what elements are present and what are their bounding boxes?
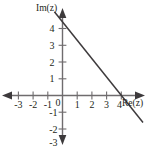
tick-label-y-3: 3 [50, 40, 55, 51]
tick-label-y-1: 1 [50, 73, 55, 84]
tick-label-y-neg2: -2 [49, 124, 57, 135]
imaginary-axis-up-arrow-icon [59, 8, 67, 18]
plot-canvas: Im(z) Re(z) -3 -2 -1 0 1 2 3 4 4 3 2 1 -… [0, 0, 147, 147]
complex-plane-figure: Im(z) Re(z) -3 -2 -1 0 1 2 3 4 4 3 2 1 -… [0, 0, 147, 147]
tick-label-x-3: 3 [104, 99, 109, 110]
real-axis-left-arrow-icon [2, 92, 12, 100]
tick-label-x-1: 1 [75, 99, 80, 110]
tick-label-x-neg3: -3 [14, 99, 22, 110]
tick-label-y-4: 4 [50, 23, 55, 34]
tick-label-y-neg1: -1 [49, 107, 57, 118]
tick-label-x-4: 4 [117, 99, 122, 110]
tick-label-x-neg2: -2 [29, 99, 37, 110]
tick-label-x-2: 2 [89, 99, 94, 110]
imaginary-axis-down-arrow-icon [59, 135, 67, 145]
imaginary-axis-label: Im(z) [36, 3, 57, 14]
tick-label-y-neg3: -3 [49, 137, 57, 148]
tick-label-y-2: 2 [50, 57, 55, 68]
real-axis-label: Re(z) [122, 98, 143, 109]
